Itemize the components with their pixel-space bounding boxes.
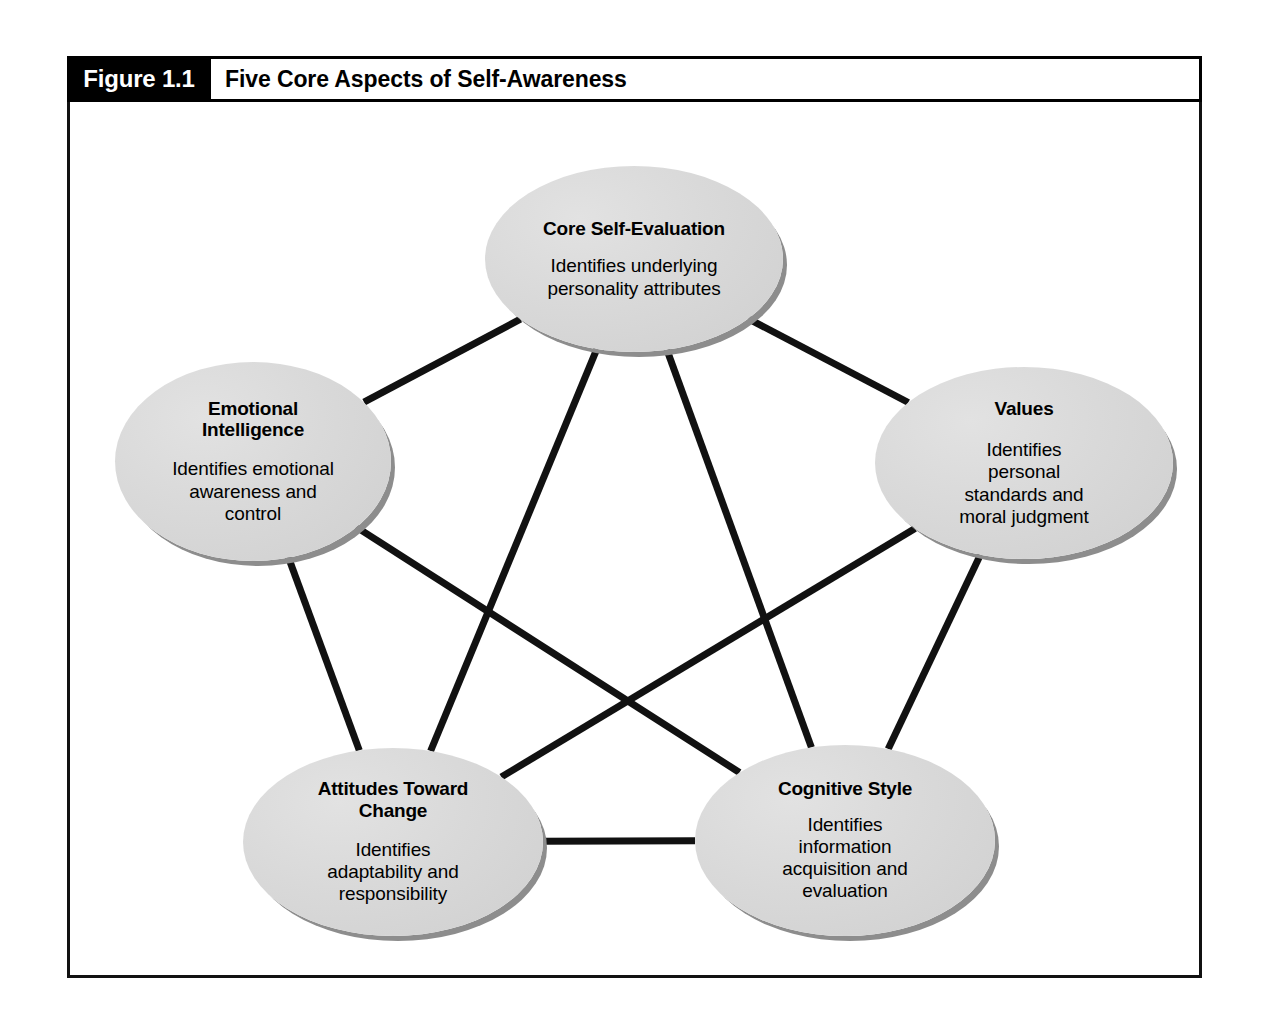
node-emotional-intelligence[interactable]: Emotional Intelligence Identifies emotio…	[115, 362, 391, 561]
node-title: Emotional Intelligence	[202, 398, 304, 441]
node-title: Attitudes Toward Change	[318, 778, 469, 821]
figure-title-box: Five Core Aspects of Self-Awareness	[211, 59, 1199, 99]
figure-header-bar: Figure 1.1 Five Core Aspects of Self-Awa…	[67, 56, 1202, 102]
figure-number-label: Figure 1.1	[67, 56, 211, 102]
node-description: Identifies underlying personality attrib…	[547, 255, 720, 299]
node-core-self-evaluation[interactable]: Core Self-Evaluation Identifies underlyi…	[485, 166, 783, 352]
node-attitudes-toward-change[interactable]: Attitudes Toward Change Identifies adapt…	[243, 748, 543, 936]
node-description: Identifies adaptability and responsibili…	[327, 839, 459, 906]
node-values[interactable]: Values Identifies personal standards and…	[875, 367, 1173, 559]
node-description: Identifies personal standards and moral …	[959, 439, 1089, 528]
figure-title: Five Core Aspects of Self-Awareness	[225, 59, 627, 99]
node-title: Core Self-Evaluation	[543, 218, 725, 239]
figure-container: Figure 1.1 Five Core Aspects of Self-Awa…	[0, 0, 1261, 1025]
node-description: Identifies information acquisition and e…	[782, 814, 907, 903]
node-description: Identifies emotional awareness and contr…	[172, 458, 334, 525]
node-title: Values	[994, 398, 1053, 419]
node-cognitive-style[interactable]: Cognitive Style Identifies information a…	[695, 745, 995, 936]
node-title: Cognitive Style	[778, 778, 912, 799]
